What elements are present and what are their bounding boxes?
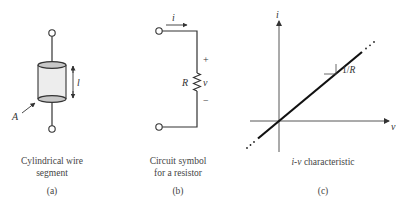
top-wire xyxy=(162,31,197,73)
caption-b-line2: for a resistor xyxy=(154,168,203,178)
current-label: i xyxy=(172,12,175,23)
panel-b-resistor: i + − R v xyxy=(156,12,209,130)
resistor-zigzag-icon xyxy=(194,73,201,91)
caption-a-line2: segment xyxy=(36,168,68,178)
top-terminal-icon xyxy=(156,28,162,34)
caption-c-line1: i-v characteristic xyxy=(291,157,354,167)
caption-a-line1: Cylindrical wire xyxy=(21,156,83,166)
voltage-label: v xyxy=(203,77,208,88)
minus-sign: − xyxy=(203,95,209,106)
bottom-terminal-icon xyxy=(156,124,162,130)
captions: Cylindrical wire segment (a) Circuit sym… xyxy=(21,156,355,197)
area-label: A xyxy=(11,111,19,122)
top-terminal-icon xyxy=(49,30,55,36)
caption-b-line1: Circuit symbol xyxy=(150,156,207,166)
length-label: l xyxy=(77,77,80,88)
area-arrow-icon xyxy=(22,103,35,113)
continuation-dots-upper xyxy=(365,41,375,49)
cylinder-bottom-end xyxy=(38,96,66,103)
plus-sign: + xyxy=(203,54,209,65)
panel-a-cylinder: l A xyxy=(11,30,80,132)
caption-c-tag: (c) xyxy=(318,186,329,197)
panel-c-iv-graph: i v 1/R xyxy=(246,9,396,152)
bottom-terminal-icon xyxy=(49,126,55,132)
caption-a-tag: (a) xyxy=(47,186,58,197)
y-axis-label: i xyxy=(276,9,279,20)
resistance-label: R xyxy=(181,77,188,88)
caption-b-tag: (b) xyxy=(172,186,183,197)
cylinder-body xyxy=(38,65,66,99)
bottom-wire xyxy=(162,91,197,127)
x-axis-label: v xyxy=(391,121,396,132)
slope-triangle xyxy=(324,64,336,74)
resistor-figure: l A i + − R v i v xyxy=(0,0,404,203)
cylinder-top-end xyxy=(38,62,66,69)
continuation-dots-lower xyxy=(246,141,255,149)
slope-label: 1/R xyxy=(342,65,355,75)
